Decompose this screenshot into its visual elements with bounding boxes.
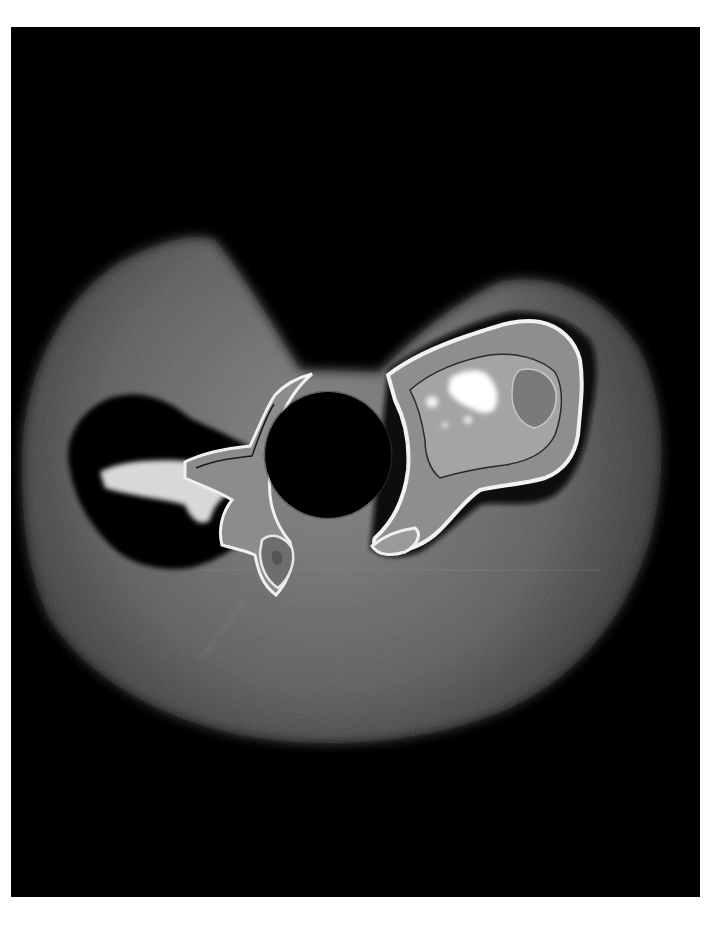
occulting-disk <box>265 392 391 518</box>
corona-drawing <box>11 27 700 897</box>
coronagraph-image <box>11 27 700 897</box>
